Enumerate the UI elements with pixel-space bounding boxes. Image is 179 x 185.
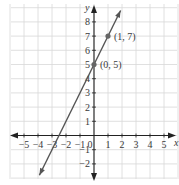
x-tick-label: −4 (33, 139, 44, 150)
y-tick-label: 2 (85, 102, 90, 113)
tick-labels: −5−4−3−2−1012345−2−112345678xy (19, 2, 179, 169)
y-tick-label: 7 (85, 31, 90, 42)
x-tick-label: 1 (106, 139, 111, 150)
x-tick-label: −3 (47, 139, 58, 150)
x-tick-label: 4 (148, 139, 153, 150)
coordinate-plane: −5−4−3−2−1012345−2−112345678xy (0, 5)(1,… (0, 0, 179, 185)
y-tick-label: −1 (79, 144, 90, 155)
x-tick-label: 2 (120, 139, 125, 150)
line-arrow-down-icon (39, 168, 44, 175)
point-marker (105, 34, 110, 39)
y-axis-label: y (84, 2, 90, 13)
x-tick-label: 3 (134, 139, 139, 150)
line-arrow-up-icon (115, 11, 120, 18)
y-tick-label: 8 (85, 16, 90, 27)
y-tick-label: −2 (79, 158, 90, 169)
y-tick-label: 1 (85, 116, 90, 127)
x-axis-label: x (173, 137, 179, 148)
labeled-points: (0, 5)(1, 7) (91, 31, 135, 71)
y-axis-arrow-up-icon (91, 5, 97, 13)
y-tick-label: 6 (85, 45, 90, 56)
x-axis-arrow-left-icon (10, 133, 18, 139)
x-tick-label: −2 (61, 139, 72, 150)
x-tick-label: 5 (162, 139, 167, 150)
y-axis-arrow-down-icon (91, 173, 97, 181)
point-label: (1, 7) (114, 31, 136, 43)
x-tick-label: −5 (19, 139, 30, 150)
y-tick-label: 5 (85, 59, 90, 70)
y-tick-label: 3 (85, 87, 90, 98)
point-marker (91, 62, 96, 67)
point-label: (0, 5) (100, 59, 122, 71)
